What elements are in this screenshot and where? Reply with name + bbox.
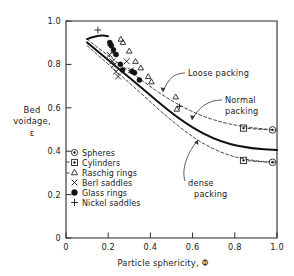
y-axis-title-symbol: ε (30, 128, 35, 138)
y-tick-label-0: 0 (56, 233, 61, 243)
y-tick-label-1: 0.2 (47, 190, 61, 200)
legend-label-nickel-saddles: Nickel saddles (82, 199, 141, 208)
x-tick-label-4: 0.8 (228, 242, 242, 252)
x-tick-label-0: 0 (63, 242, 68, 252)
legend-label-cylinders: Cylinders (82, 159, 120, 168)
x-tick-label-1: 0.2 (101, 242, 115, 252)
x-tick-label-2: 0.4 (144, 242, 158, 252)
bed-voidage-vs-sphericity-chart: 0 0.2 0.4 0.6 0.8 1.0 0 0.2 0.4 0.6 0.8 … (0, 0, 294, 276)
x-tick-label-3: 0.6 (186, 242, 200, 252)
y-axis-title-line2: voidage, (13, 116, 51, 126)
y-axis-title-line1: Bed (24, 105, 41, 115)
y-tick-label-3: 0.6 (47, 103, 61, 113)
annotation-dense-packing-line1: dense (188, 178, 214, 188)
figure-container: 0 0.2 0.4 0.6 0.8 1.0 0 0.2 0.4 0.6 0.8 … (0, 0, 294, 276)
y-tick-label-4: 0.8 (47, 59, 61, 69)
annotation-loose-packing-label: Loose packing (188, 68, 249, 78)
legend-item-nickel-saddles: Nickel saddles (72, 199, 141, 208)
legend-label-raschig-rings: Raschig rings (82, 169, 137, 178)
x-axis-title: Particle sphericity, Φ (117, 258, 208, 268)
annotation-normal-packing-line1: Normal (225, 95, 256, 105)
y-tick-label-2: 0.4 (47, 146, 61, 156)
legend-item-raschig-rings: Raschig rings (71, 169, 137, 178)
x-tick-label-5: 1.0 (270, 242, 284, 252)
annotation-normal-packing-line2: packing (225, 106, 259, 116)
legend-label-glass-rings: Glass rings (82, 189, 127, 198)
circle-filled-icon (72, 190, 78, 196)
y-tick-label-5: 1.0 (47, 16, 61, 26)
chart-background (0, 0, 294, 276)
legend-label-spheres: Spheres (82, 149, 115, 158)
legend-label-berl-saddles: Berl saddles (82, 179, 132, 188)
annotation-dense-packing-line2: packing (194, 189, 228, 199)
